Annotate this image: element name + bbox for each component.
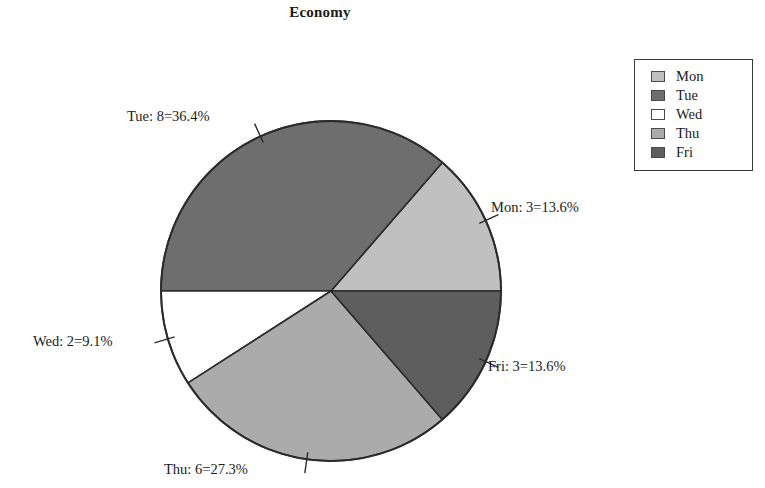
slice-label-wed: Wed: 2=9.1% — [33, 333, 113, 350]
slice-label-fri: Fri: 3=13.6% — [488, 358, 565, 375]
legend-item-thu[interactable]: Thu — [651, 124, 703, 143]
legend: Mon Tue Wed Thu Fri — [634, 59, 753, 171]
legend-label-tue: Tue — [676, 88, 698, 103]
legend-label-fri: Fri — [676, 145, 693, 160]
slice-label-tue: Tue: 8=36.4% — [127, 108, 210, 125]
legend-swatch-fri — [651, 147, 665, 158]
legend-item-wed[interactable]: Wed — [651, 105, 703, 124]
legend-label-mon: Mon — [676, 69, 703, 84]
legend-item-mon[interactable]: Mon — [651, 67, 703, 86]
legend-swatch-thu — [651, 128, 665, 139]
legend-label-thu: Thu — [676, 126, 699, 141]
legend-swatch-mon — [651, 71, 665, 82]
legend-label-wed: Wed — [676, 107, 702, 122]
legend-item-tue[interactable]: Tue — [651, 86, 703, 105]
legend-list: Mon Tue Wed Thu Fri — [651, 67, 703, 162]
slice-label-mon: Mon: 3=13.6% — [491, 199, 579, 216]
legend-item-fri[interactable]: Fri — [651, 143, 703, 162]
legend-swatch-wed — [651, 109, 665, 120]
slice-label-thu: Thu: 6=27.3% — [164, 461, 248, 478]
legend-swatch-tue — [651, 90, 665, 101]
